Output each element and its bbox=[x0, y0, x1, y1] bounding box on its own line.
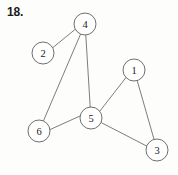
graph-edge-4-2 bbox=[52, 29, 75, 48]
graph-node-4[interactable]: 4 bbox=[74, 13, 96, 35]
node-label-6: 6 bbox=[36, 126, 41, 137]
graph-node-6[interactable]: 6 bbox=[28, 120, 50, 142]
node-label-1: 1 bbox=[131, 65, 136, 76]
edge-group bbox=[43, 29, 154, 146]
graph-node-1[interactable]: 1 bbox=[123, 59, 145, 81]
graph-edge-5-6 bbox=[50, 116, 80, 130]
graph-figure: 18. 421563 bbox=[0, 0, 178, 175]
graph-node-2[interactable]: 2 bbox=[32, 42, 54, 64]
graph-canvas: 421563 bbox=[0, 0, 178, 175]
graph-node-5[interactable]: 5 bbox=[80, 107, 102, 129]
graph-edge-1-3 bbox=[137, 81, 154, 140]
node-group: 421563 bbox=[28, 13, 168, 161]
graph-edge-5-3 bbox=[102, 123, 147, 146]
node-label-3: 3 bbox=[154, 145, 159, 156]
node-label-4: 4 bbox=[82, 19, 88, 30]
graph-node-3[interactable]: 3 bbox=[146, 139, 168, 161]
node-label-2: 2 bbox=[40, 48, 45, 59]
graph-edge-5-1 bbox=[100, 78, 126, 112]
node-label-5: 5 bbox=[88, 113, 93, 124]
graph-edge-4-5 bbox=[86, 35, 90, 107]
